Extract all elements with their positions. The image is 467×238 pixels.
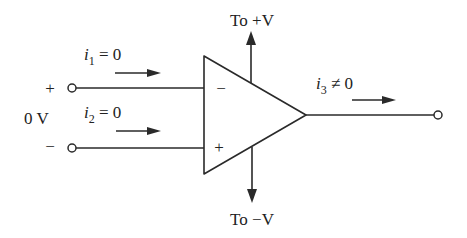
inverting-input-sign: −	[216, 79, 226, 98]
supply-positive-arrow	[246, 31, 256, 83]
noninverting-input-sign: +	[214, 138, 224, 157]
input-minus-sign: −	[45, 137, 55, 156]
input-voltage-label: 0 V	[24, 109, 49, 128]
current-i2-arrow	[116, 127, 161, 135]
input-terminal-minus	[68, 144, 76, 152]
opamp-diagram: To +V To −V − + + − 0 V i1 = 0 i2 = 0 i3…	[0, 0, 467, 238]
current-i1-label: i1 = 0	[84, 45, 121, 68]
output-terminal	[434, 111, 442, 119]
current-i3-arrow	[352, 96, 396, 104]
current-i1-arrow	[115, 69, 161, 77]
supply-negative-label: To −V	[230, 210, 275, 229]
input-plus-sign: +	[45, 79, 55, 98]
input-terminal-plus	[68, 84, 76, 92]
supply-positive-label: To +V	[230, 11, 275, 30]
supply-negative-arrow	[247, 147, 257, 203]
current-i2-label: i2 = 0	[84, 103, 121, 126]
current-i3-label: i3 ≠ 0	[316, 74, 353, 97]
